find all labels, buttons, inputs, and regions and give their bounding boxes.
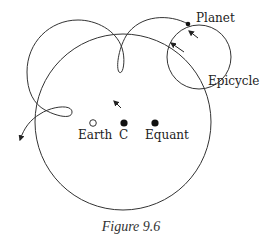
- planet-dot: [186, 22, 191, 27]
- center-marker: [120, 119, 127, 126]
- epicycle-label: Epicycle: [208, 75, 259, 87]
- deferent-direction-arrow: [114, 101, 121, 108]
- planet-label: Planet: [196, 12, 235, 24]
- diagram-canvas: [0, 0, 262, 239]
- epicycle-diagram: Planet Epicycle Earth C Equant Figure 9.…: [0, 0, 262, 239]
- center-label: C: [119, 129, 128, 141]
- earth-marker: [90, 120, 97, 127]
- earth-label: Earth: [78, 129, 112, 141]
- planet-direction-arrow: [189, 31, 198, 38]
- figure-caption: Figure 9.6: [0, 219, 262, 235]
- epicycle-direction-arrow: [171, 43, 184, 52]
- equant-marker: [151, 119, 158, 126]
- equant-label: Equant: [145, 129, 189, 141]
